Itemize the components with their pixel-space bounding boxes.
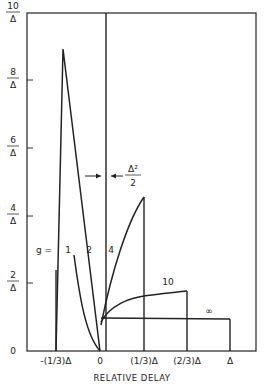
curves bbox=[56, 49, 230, 351]
svg-text:2: 2 bbox=[86, 245, 92, 255]
svg-text:g =: g = bbox=[36, 245, 52, 255]
svg-text:Δ: Δ bbox=[10, 283, 17, 293]
y-label-2: 2 Δ bbox=[7, 270, 19, 293]
y-ticks bbox=[27, 80, 33, 283]
svg-text:2: 2 bbox=[130, 178, 136, 188]
y-tick-labels: 0 2 Δ 4 Δ 6 Δ 8 Δ 10 Δ bbox=[6, 1, 20, 356]
svg-text:Δ: Δ bbox=[10, 80, 17, 90]
chart: 0 2 Δ 4 Δ 6 Δ 8 Δ 10 Δ bbox=[0, 0, 265, 390]
svg-text:10: 10 bbox=[162, 277, 174, 287]
curve-g2 bbox=[74, 255, 100, 351]
curve-g4 bbox=[101, 197, 144, 325]
curve-ginf bbox=[101, 318, 230, 319]
svg-text:4: 4 bbox=[10, 203, 16, 213]
svg-text:10: 10 bbox=[7, 1, 19, 11]
svg-text:Δ: Δ bbox=[10, 216, 17, 226]
y-label-4: 4 Δ bbox=[7, 203, 19, 226]
svg-text:1: 1 bbox=[65, 245, 71, 255]
svg-text:Δ: Δ bbox=[10, 148, 17, 158]
svg-text:∞: ∞ bbox=[205, 306, 213, 316]
svg-text:(1/3)Δ: (1/3)Δ bbox=[130, 356, 159, 366]
curve-labels: g = 1 2 4 10 ∞ bbox=[36, 245, 213, 316]
svg-text:Δ: Δ bbox=[10, 14, 17, 24]
svg-text:6: 6 bbox=[10, 135, 16, 145]
y-label-8: 8 Δ bbox=[7, 67, 19, 90]
vertical-lines bbox=[56, 13, 230, 351]
svg-text:-(1/3)Δ: -(1/3)Δ bbox=[41, 356, 73, 366]
svg-text:0: 0 bbox=[10, 346, 16, 356]
svg-text:8: 8 bbox=[10, 67, 16, 77]
svg-text:Δ²: Δ² bbox=[128, 164, 138, 174]
svg-text:Δ: Δ bbox=[227, 356, 234, 366]
curve-g1 bbox=[56, 49, 100, 351]
svg-text:(2/3)Δ: (2/3)Δ bbox=[173, 356, 202, 366]
delta-annotation: Δ² 2 bbox=[85, 164, 141, 188]
x-axis-label: RELATIVE DELAY bbox=[93, 373, 170, 383]
y-label-6: 6 Δ bbox=[7, 135, 19, 158]
svg-text:4: 4 bbox=[108, 245, 114, 255]
svg-text:2: 2 bbox=[10, 270, 16, 280]
y-label-10: 10 Δ bbox=[6, 1, 20, 24]
plot-frame bbox=[27, 13, 256, 351]
x-tick-labels: -(1/3)Δ 0 (1/3)Δ (2/3)Δ Δ bbox=[41, 356, 234, 366]
svg-text:0: 0 bbox=[97, 356, 103, 366]
